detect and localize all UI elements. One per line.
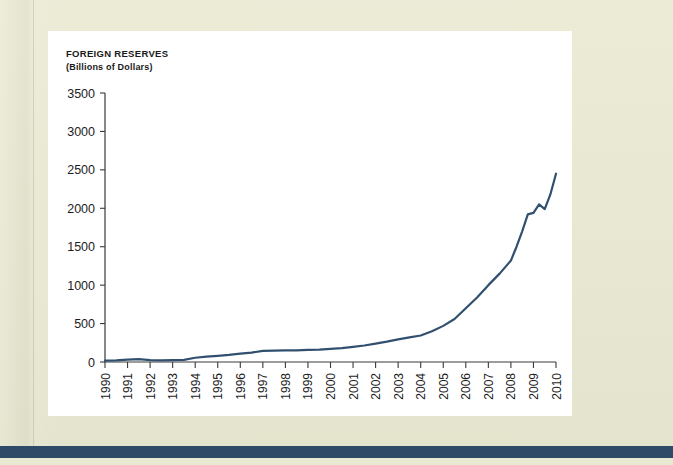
y-tick-label: 2000 <box>67 202 95 216</box>
page-background: Foreign Reserves (Billions of Dollars) 3… <box>0 0 673 465</box>
page-margin-rule <box>33 0 34 446</box>
x-tick-label: 2010 <box>550 373 564 400</box>
x-tick-label: 2002 <box>369 373 383 400</box>
x-tick-label: 1992 <box>144 373 158 400</box>
x-tick-label: 1991 <box>121 373 135 400</box>
footer-edge <box>0 458 673 465</box>
y-tick-label: 1500 <box>67 240 95 254</box>
x-tick-label: 2006 <box>459 373 473 400</box>
plot-svg: 3500300025002000150010005000 19901991199… <box>48 31 572 416</box>
x-tick-label: 1990 <box>99 373 113 400</box>
x-tick-label: 1999 <box>301 373 315 400</box>
footer-accent-bar <box>0 446 673 458</box>
x-tick-label: 2001 <box>347 373 361 400</box>
x-tick-label: 1994 <box>189 373 203 400</box>
x-tick-label: 1997 <box>256 373 270 400</box>
x-tick-label: 1996 <box>234 373 248 400</box>
y-axis-ticks: 3500300025002000150010005000 <box>67 87 105 370</box>
y-tick-label: 500 <box>74 317 95 331</box>
x-axis-ticks: 1990199119921993199419951996199719981999… <box>99 362 564 400</box>
x-tick-label: 1993 <box>166 373 180 400</box>
x-tick-label: 2004 <box>414 373 428 400</box>
y-tick-label: 3500 <box>67 87 95 101</box>
x-tick-label: 2005 <box>437 373 451 400</box>
x-tick-label: 2007 <box>482 373 496 400</box>
x-tick-label: 2009 <box>527 373 541 400</box>
chart-card: Foreign Reserves (Billions of Dollars) 3… <box>48 31 572 416</box>
axis-lines <box>105 93 556 362</box>
y-tick-label: 0 <box>88 356 95 370</box>
x-tick-label: 1998 <box>279 373 293 400</box>
data-series-line <box>105 174 556 361</box>
x-tick-label: 2000 <box>324 373 338 400</box>
y-tick-label: 3000 <box>67 125 95 139</box>
y-tick-label: 2500 <box>67 163 95 177</box>
chart: Foreign Reserves (Billions of Dollars) 3… <box>48 31 572 416</box>
x-tick-label: 2008 <box>504 373 518 400</box>
y-tick-label: 1000 <box>67 279 95 293</box>
x-tick-label: 2003 <box>392 373 406 400</box>
x-tick-label: 1995 <box>211 373 225 400</box>
x-axis-title: YEAR <box>524 415 552 416</box>
